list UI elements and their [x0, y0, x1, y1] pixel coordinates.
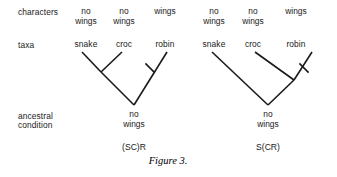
taxon-label-right-snake: snake [203, 40, 226, 50]
right-tree-robin-branch [294, 52, 312, 80]
character-line2: wings [242, 17, 263, 27]
row-label-characters: characters [18, 8, 58, 18]
character-state-left-snake: no wings [75, 7, 96, 26]
ancestral-line2: wings [257, 120, 278, 130]
left-tree-croc-branch [101, 52, 122, 72]
character-line2: wings [75, 17, 96, 27]
ancestral-line2: wings [123, 120, 144, 130]
taxon-label-left-snake: snake [75, 40, 98, 50]
figure-container: characters taxa ancestral condition no w… [0, 0, 337, 177]
character-line2: wings [154, 7, 175, 17]
left-tree-robin-branch [134, 52, 167, 105]
taxon-label-right-croc: croc [245, 40, 261, 50]
character-state-right-croc: no wings [242, 7, 263, 26]
ancestral-state-left-tree: no wings [123, 110, 144, 129]
topology-code-left-tree: (SC)R [122, 142, 146, 152]
right-tree-wing-gain-tick [299, 63, 308, 72]
right-tree-snake-branch [212, 52, 268, 105]
character-state-right-snake: no wings [203, 7, 224, 26]
taxon-label-right-robin: robin [286, 40, 305, 50]
figure-caption: Figure 3. [149, 155, 188, 166]
right-tree-internal-branch [268, 80, 294, 105]
character-state-left-robin: wings [154, 7, 175, 17]
right-tree-croc-branch [255, 52, 294, 80]
character-state-left-croc: no wings [113, 7, 134, 26]
cladogram-lines [0, 0, 337, 177]
row-label-taxa: taxa [18, 41, 34, 51]
ancestral-state-right-tree: no wings [257, 110, 278, 129]
left-tree-internal-branch [101, 72, 134, 105]
character-line2: wings [203, 17, 224, 27]
row-label-condition: condition [18, 121, 52, 131]
branch-group [82, 52, 312, 105]
taxon-label-left-robin: robin [155, 40, 174, 50]
left-tree-wing-gain-tick [145, 63, 154, 72]
character-line2: wings [113, 17, 134, 27]
left-tree-snake-branch [82, 52, 101, 72]
character-state-right-robin: wings [285, 7, 306, 17]
topology-code-right-tree: S(CR) [256, 142, 280, 152]
character-line2: wings [285, 7, 306, 17]
taxon-label-left-croc: croc [116, 40, 132, 50]
